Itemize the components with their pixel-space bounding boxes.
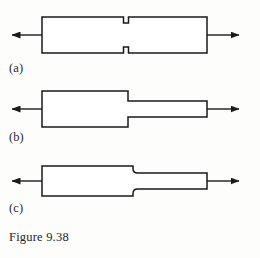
panel-label-a: (a) xyxy=(9,62,23,75)
panel-label-c: (c) xyxy=(9,202,23,215)
panel-c-bar-outline xyxy=(42,166,207,196)
figure-container: (a) (b) (c) Figure 9.38 xyxy=(0,0,260,258)
panel-b-drawing xyxy=(12,91,239,127)
figure-caption: Figure 9.38 xyxy=(9,231,69,244)
panel-a-drawing xyxy=(12,17,239,53)
panel-a-bar-outline xyxy=(42,17,207,53)
panel-b-bar-outline xyxy=(42,91,207,127)
figure-drawing xyxy=(0,0,260,258)
panel-label-b: (b) xyxy=(9,131,24,144)
panel-c-drawing xyxy=(12,166,239,196)
